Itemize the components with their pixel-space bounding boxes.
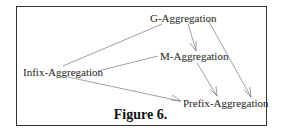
edge-m-prefix <box>197 63 217 96</box>
edge-infix-m <box>98 56 158 71</box>
edge-infix-prefix <box>68 77 180 101</box>
arrowhead-icon <box>244 87 251 97</box>
figure-caption: Figure 6. <box>0 107 281 123</box>
node-infix-aggregation: Infix-Aggregation <box>23 66 103 78</box>
node-m-aggregation: M-Aggregation <box>160 50 228 62</box>
arrowhead-icon <box>210 86 217 96</box>
node-g-aggregation: G-Aggregation <box>150 12 217 24</box>
edge-infix-g <box>63 24 162 66</box>
